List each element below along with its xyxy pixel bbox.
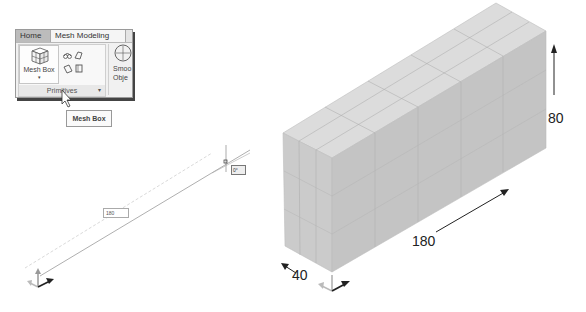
length-input[interactable]: 180 [103,208,129,218]
width-dimension: 40 [292,267,308,283]
height-arrow-icon [551,44,557,95]
ucs-icon [27,268,54,287]
mesh-box[interactable] [283,3,546,272]
drawing-viewport[interactable] [0,0,586,312]
height-dimension: 80 [548,110,564,126]
length-dimension: 180 [412,233,435,249]
ucs-icon-result [318,275,350,291]
angle-tooltip: 0° [231,165,246,175]
